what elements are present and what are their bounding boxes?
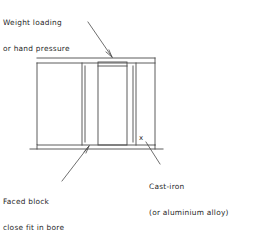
reference-point-x-text: x	[139, 134, 143, 142]
technical-diagram-figure: x Weight loading or hand pressure Faced …	[0, 0, 254, 232]
cast-iron-collar-label-line-2: (or aluminium alloy)	[149, 209, 237, 218]
cast-iron-collar-label-line-1: Cast-iron	[149, 183, 237, 192]
leader-weight-loading	[88, 22, 112, 57]
weight-loading-label-line-2: or hand pressure	[3, 45, 70, 54]
faced-block-label-line-2: close fit in bore	[3, 224, 64, 232]
faced-block-label: Faced block close fit in bore	[3, 181, 64, 232]
reference-point-x-mark: x	[139, 134, 143, 142]
bore-right-wall	[133, 63, 136, 145]
faced-block-label-line-1: Faced block	[3, 198, 64, 207]
leader-faced-block	[62, 146, 89, 181]
weight-loading-label: Weight loading or hand pressure	[3, 2, 70, 71]
bore-left-wall	[82, 63, 85, 145]
weight-loading-label-line-1: Weight loading	[3, 19, 70, 28]
base-surface-line	[30, 145, 163, 149]
faced-block	[98, 62, 127, 145]
collar-outer-body	[37, 58, 155, 145]
cast-iron-collar-label: Cast-iron (or aluminium alloy) collar — …	[149, 166, 237, 232]
